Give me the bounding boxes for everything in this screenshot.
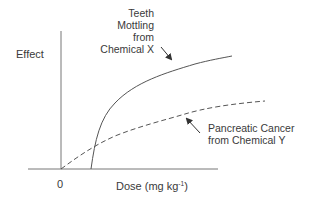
y-axis-label: Effect [16,48,44,60]
dose-response-chart [0,0,310,204]
arrow-chemical-x-icon [161,47,171,59]
annotation-chemical-x: Teeth Mottling from Chemical X [96,7,154,55]
annotation-line: from Chemical Y [208,134,294,146]
annotation-line: Chemical X [96,43,154,55]
annotation-line: from [96,31,154,43]
annotation-line: Mottling [96,19,154,31]
x-axis-label-close: ) [184,180,188,192]
annotation-chemical-y: Pancreatic Cancer from Chemical Y [208,122,294,146]
origin-tick-label: 0 [57,178,63,190]
x-axis-label-text: Dose (mg kg [116,180,178,192]
arrow-chemical-y-icon [187,119,200,133]
annotation-line: Pancreatic Cancer [208,122,294,134]
curve-chemical-x [91,56,232,169]
x-axis-label: Dose (mg kg-1) [116,178,188,192]
annotation-line: Teeth [96,7,154,19]
